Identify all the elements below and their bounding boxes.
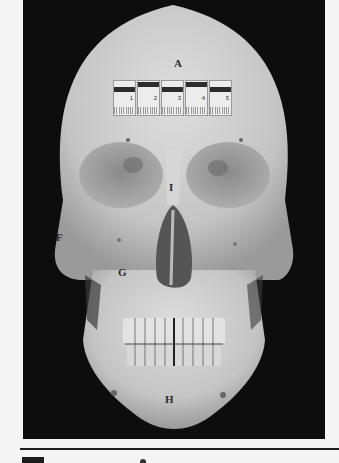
- ruler-segment: 1: [113, 80, 136, 116]
- clipped-text-fragment: [140, 459, 146, 463]
- ruler-mark: 5: [226, 95, 229, 101]
- label-i: I: [169, 182, 173, 193]
- ruler-mark: 2: [154, 95, 157, 101]
- ruler-mark: 4: [202, 95, 205, 101]
- label-g: G: [118, 267, 127, 278]
- horizontal-rule: [20, 448, 339, 450]
- skull-photograph: 1 2 3 4 5 A I F G H: [23, 0, 325, 439]
- ruler-mark: 1: [130, 95, 133, 101]
- label-h: H: [165, 394, 174, 405]
- ruler-segment: 4: [185, 80, 208, 116]
- ruler-segment: 3: [161, 80, 184, 116]
- label-a: A: [174, 58, 182, 69]
- ruler-segment: 2: [137, 80, 160, 116]
- scale-ruler: 1 2 3 4 5: [113, 80, 233, 116]
- label-f: F: [56, 232, 63, 243]
- ruler-mark: 3: [178, 95, 181, 101]
- clipped-heading-text: [22, 457, 44, 463]
- ruler-segment: 5: [209, 80, 232, 116]
